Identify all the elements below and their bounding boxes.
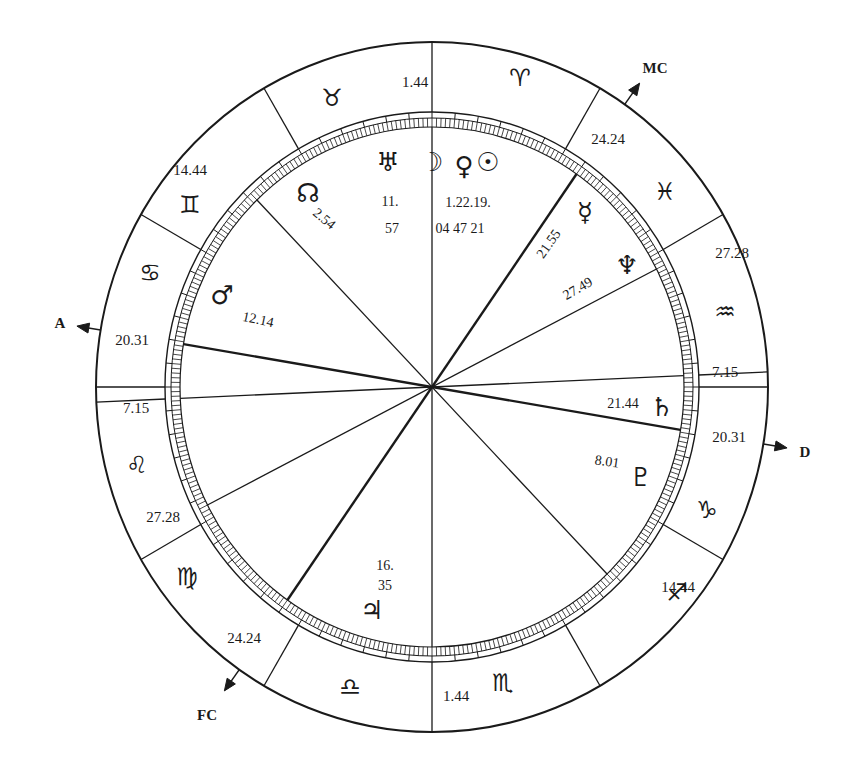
degree-tick bbox=[264, 586, 270, 593]
degree-tick bbox=[182, 463, 191, 466]
degree-tick bbox=[638, 536, 645, 541]
degree-tick bbox=[172, 410, 181, 411]
degree-tick bbox=[622, 558, 629, 564]
degree-tick bbox=[669, 295, 677, 298]
degree-tick bbox=[373, 640, 375, 649]
degree-tick bbox=[542, 621, 546, 629]
degree-tick bbox=[238, 561, 245, 567]
degree-tick bbox=[229, 551, 236, 557]
venus-icon: ♀ bbox=[454, 153, 473, 179]
five-degree-tick bbox=[243, 193, 247, 197]
degree-tick bbox=[226, 547, 233, 553]
pisces-sign-icon: ♓ bbox=[654, 180, 676, 204]
five-degree-tick bbox=[169, 434, 175, 435]
degree-tick bbox=[378, 124, 380, 133]
degree-tick bbox=[587, 175, 593, 182]
degree-tick bbox=[538, 143, 542, 151]
degree-tick bbox=[497, 638, 499, 647]
five-degree-tick bbox=[386, 116, 387, 122]
degree-tick bbox=[662, 493, 670, 497]
midheaven-arrowhead-icon bbox=[629, 83, 640, 96]
house-cusp-degree: 20.31 bbox=[115, 333, 149, 348]
degree-tick bbox=[538, 623, 542, 631]
degree-tick bbox=[631, 547, 638, 553]
degree-tick bbox=[625, 554, 632, 560]
degree-tick bbox=[197, 269, 205, 273]
five-degree-tick bbox=[363, 121, 365, 127]
degree-tick bbox=[660, 497, 668, 501]
degree-tick bbox=[518, 631, 521, 639]
degree-tick bbox=[330, 139, 334, 147]
degree-tick bbox=[497, 127, 499, 136]
five-degree-tick bbox=[658, 522, 663, 525]
degree-tick bbox=[506, 636, 509, 645]
degree-tick bbox=[257, 187, 263, 194]
five-degree-tick bbox=[169, 339, 175, 340]
house-cusp-degree: 27.28 bbox=[715, 246, 749, 261]
degree-tick bbox=[522, 630, 525, 638]
degree-tick bbox=[641, 532, 648, 537]
five-degree-tick bbox=[409, 113, 410, 119]
degree-tick bbox=[194, 493, 202, 497]
degree-tick bbox=[185, 299, 194, 302]
degree-tick bbox=[680, 432, 689, 434]
degree-tick bbox=[202, 509, 210, 513]
degree-tick bbox=[631, 221, 638, 227]
degree-tick bbox=[683, 364, 692, 365]
degree-tick bbox=[580, 169, 585, 176]
five-degree-tick bbox=[684, 316, 690, 318]
degree-tick bbox=[185, 472, 194, 475]
mercury-icon: ☿ bbox=[577, 199, 593, 225]
astrology-chart-wheel bbox=[0, 0, 854, 773]
degree-tick bbox=[261, 583, 267, 590]
degree-tick bbox=[382, 642, 384, 651]
five-degree-tick bbox=[279, 162, 282, 167]
degree-tick bbox=[268, 589, 274, 596]
degree-tick bbox=[569, 605, 574, 613]
five-degree-tick bbox=[600, 176, 604, 181]
degree-tick bbox=[677, 322, 686, 324]
degree-tick bbox=[175, 432, 184, 434]
degree-tick bbox=[356, 636, 359, 645]
sign-boundary-line bbox=[141, 215, 201, 250]
degree-tick bbox=[192, 282, 200, 286]
degree-tick bbox=[409, 646, 410, 655]
degree-tick bbox=[244, 568, 250, 574]
degree-tick bbox=[471, 644, 472, 653]
uranus-degree: 11. bbox=[382, 195, 399, 209]
degree-tick bbox=[646, 244, 654, 249]
five-degree-tick bbox=[227, 560, 232, 564]
house-cusp-degree: 14.44 bbox=[173, 163, 207, 178]
degree-tick bbox=[558, 612, 563, 620]
degree-tick bbox=[294, 159, 299, 167]
moon-venus-sun-degrees-minutes: 04 47 21 bbox=[436, 222, 485, 236]
degree-tick bbox=[309, 149, 313, 157]
five-degree-tick bbox=[279, 607, 282, 612]
degree-tick bbox=[591, 589, 597, 596]
degree-tick bbox=[369, 126, 371, 135]
degree-tick bbox=[613, 200, 619, 206]
degree-tick bbox=[467, 644, 468, 653]
degree-tick bbox=[683, 410, 692, 411]
degree-tick bbox=[241, 204, 248, 210]
degree-tick bbox=[309, 617, 313, 625]
degree-tick bbox=[177, 331, 186, 333]
house-cusp-degree: 20.31 bbox=[712, 430, 746, 445]
degree-tick bbox=[235, 558, 242, 564]
five-degree-tick bbox=[542, 138, 545, 143]
degree-tick bbox=[302, 154, 307, 162]
degree-tick bbox=[610, 571, 616, 577]
degree-tick bbox=[279, 169, 284, 176]
five-degree-tick bbox=[477, 116, 478, 122]
degree-tick bbox=[178, 445, 187, 447]
degree-tick bbox=[681, 345, 690, 346]
degree-tick bbox=[662, 278, 670, 282]
degree-tick bbox=[514, 633, 517, 642]
degree-tick bbox=[334, 628, 337, 636]
north-node-icon: ☊ bbox=[296, 180, 319, 206]
degree-tick bbox=[184, 304, 193, 307]
degree-tick bbox=[514, 133, 517, 142]
degree-tick bbox=[493, 639, 495, 648]
degree-tick bbox=[387, 122, 389, 131]
degree-tick bbox=[652, 513, 660, 517]
